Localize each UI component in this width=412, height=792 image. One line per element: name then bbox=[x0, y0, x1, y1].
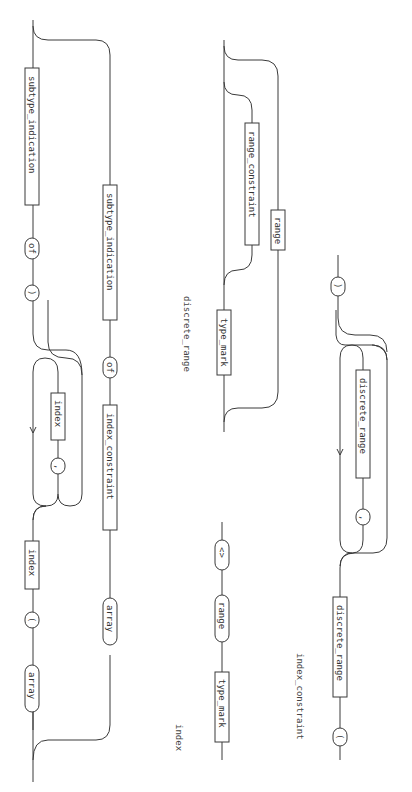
ic-rparen-label: ) bbox=[333, 283, 343, 288]
array-type-definition-diagram: array ( index , index ) of subtype_in bbox=[25, 20, 117, 782]
ic-comma-separator-label: , bbox=[358, 515, 368, 520]
discrete-range-title: discrete_range bbox=[182, 296, 192, 372]
box-symbol-label: <> bbox=[217, 547, 227, 558]
rparen-label: ) bbox=[27, 290, 37, 295]
index-nonterminal-label: index bbox=[27, 549, 37, 577]
index-title: index bbox=[174, 724, 184, 752]
range-constraint-label: range_constraint bbox=[247, 131, 257, 218]
lparen-label: ( bbox=[27, 617, 37, 622]
lower-of-keyword-label: of bbox=[105, 362, 115, 373]
range-keyword-label: range bbox=[217, 602, 227, 629]
ic-loop-discrete-range-label: discrete_range bbox=[358, 378, 368, 454]
type-mark-label: type_mark bbox=[219, 318, 229, 367]
of-keyword-label: of bbox=[27, 243, 37, 254]
syntax-diagram-page: array ( index , index ) of subtype_in bbox=[0, 0, 412, 792]
discrete-range-diagram: discrete_range type_mark range_constrain… bbox=[182, 40, 285, 432]
subtype-indication-label: subtype_indication bbox=[27, 76, 37, 174]
ic-lparen-label: ( bbox=[335, 734, 345, 739]
index-constraint-title: index_constraint bbox=[295, 653, 305, 740]
array-keyword-label: array bbox=[27, 672, 37, 700]
ic-discrete-range-label: discrete_range bbox=[335, 605, 345, 681]
index-constraint-label: index_constraint bbox=[105, 413, 115, 500]
range-label: range bbox=[273, 217, 283, 244]
lower-array-keyword-label: array bbox=[105, 605, 115, 633]
lower-path-branch bbox=[33, 655, 110, 760]
exit-merge-curve bbox=[33, 26, 110, 185]
index-type-mark-label: type_mark bbox=[217, 679, 227, 728]
loop-index-label: index bbox=[53, 400, 63, 428]
lower-subtype-indication-label: subtype_indication bbox=[105, 193, 115, 291]
comma-separator-label: , bbox=[53, 464, 63, 469]
index-diagram: index type_mark range <> bbox=[174, 522, 229, 760]
range-branch bbox=[224, 250, 278, 422]
index-constraint-diagram: index_constraint ( discrete_range , disc… bbox=[295, 255, 387, 760]
